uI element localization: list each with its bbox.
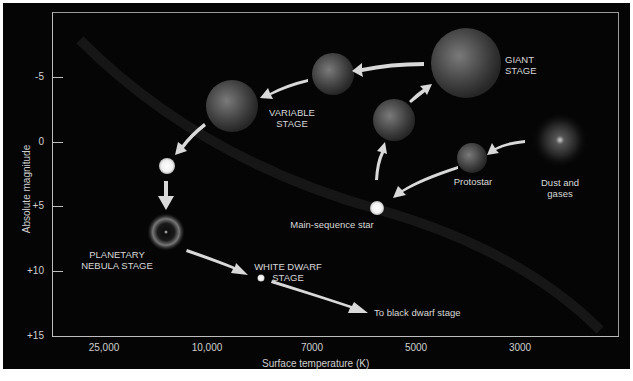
label-line: VARIABLE	[262, 107, 322, 118]
main-sequence-star	[370, 201, 384, 215]
dust-cloud	[532, 112, 588, 168]
label-white-dwarf: WHITE DWARF STAGE	[253, 261, 323, 283]
label-line: STAGE	[253, 272, 323, 283]
x-tick-label: 25,000	[74, 342, 134, 354]
y-tick-label: -5	[4, 71, 44, 83]
label-main-sequence: Main-sequence star	[282, 219, 382, 230]
label-black-dwarf: To black dwarf stage	[374, 307, 461, 318]
y-axis-title: Absolute magnitude	[21, 134, 33, 244]
label-line: STAGE	[262, 118, 322, 129]
label-giant: GIANT STAGE	[505, 54, 545, 76]
label-planetary-nebula: PLANETARY NEBULA STAGE	[72, 249, 162, 271]
y-tick-label: +15	[4, 330, 44, 342]
x-tick-label: 3000	[490, 342, 550, 354]
label-variable: VARIABLE STAGE	[262, 107, 322, 129]
variable-star	[206, 80, 258, 132]
giant-star	[431, 28, 501, 98]
nebula-core	[165, 231, 168, 234]
y-tick-mark	[53, 142, 63, 143]
label-line: STAGE	[505, 65, 545, 76]
label-line: gases	[530, 188, 590, 199]
protostar	[457, 143, 487, 173]
y-tick-mark	[53, 206, 63, 207]
x-tick-label: 7000	[282, 342, 342, 354]
label-line: PLANETARY	[72, 249, 162, 260]
label-line: GIANT	[505, 54, 545, 65]
y-tick-mark	[53, 271, 63, 272]
label-line: Dust and	[530, 177, 590, 188]
x-tick-label: 5000	[386, 342, 446, 354]
label-line: NEBULA STAGE	[72, 260, 162, 271]
x-tick-label: 10,000	[177, 342, 237, 354]
label-protostar: Protostar	[443, 176, 503, 187]
post-variable-star	[159, 158, 175, 174]
label-line: WHITE DWARF	[253, 261, 323, 272]
subgiant-star	[373, 99, 415, 141]
giant-transition-star	[312, 53, 354, 95]
y-tick-mark	[53, 77, 63, 78]
y-tick-label: +10	[4, 265, 44, 277]
x-axis-title: Surface temperature (K)	[262, 358, 369, 370]
label-dust: Dust and gases	[530, 177, 590, 199]
